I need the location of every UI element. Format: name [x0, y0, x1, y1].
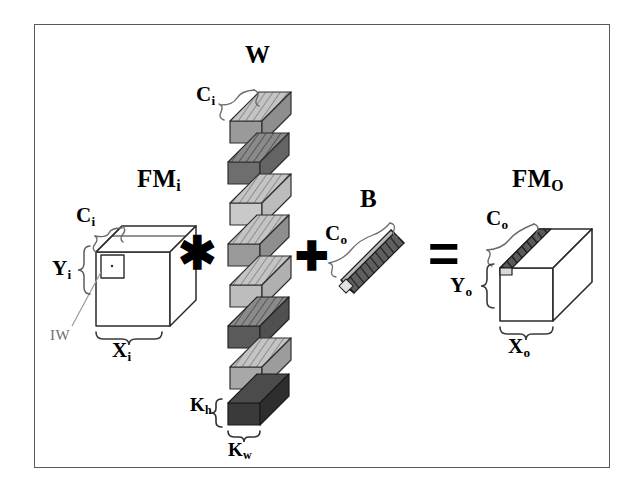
label-fm-o: FMO: [512, 166, 564, 191]
label-w-ci: Ci: [196, 84, 215, 105]
label-fm-o-co: Co: [486, 208, 508, 229]
label-fm-i: FMi: [137, 166, 181, 191]
label-w-kh: Kh: [190, 395, 212, 414]
fm-i-receptive-field-dot: [111, 265, 113, 267]
fm-o-yo-brace: [481, 264, 494, 308]
output-feature-map: [500, 229, 592, 321]
fm-i-yi-brace: [78, 246, 90, 294]
label-fm-o-xo: Xo: [508, 336, 530, 357]
convolution-operator-icon: ✱: [178, 231, 217, 277]
figure-root: FMi Ci Yi Xi IW W Ci Kh Kw B Co FMO Co Y…: [0, 0, 640, 489]
equals-operator-icon: =: [428, 226, 460, 280]
bias-vector: [339, 230, 404, 293]
label-fm-i-iw: IW: [50, 327, 70, 344]
label-w: W: [245, 42, 270, 67]
label-fm-i-yi: Yi: [52, 258, 71, 279]
plus-operator-icon: ✚: [295, 237, 329, 277]
fm-o-front-face: [500, 268, 553, 321]
label-fm-i-xi: Xi: [112, 340, 131, 361]
label-fm-i-ci: Ci: [76, 205, 95, 226]
label-b: B: [360, 186, 377, 211]
label-w-kw: Kw: [228, 440, 252, 459]
w-kh-brace: [211, 399, 222, 427]
